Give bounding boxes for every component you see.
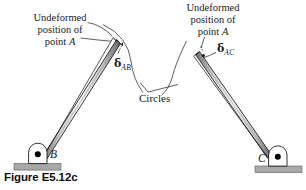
pin-c [275,154,281,160]
left-label-point-a: A [69,36,75,47]
label-delta-ac: δAC [217,42,234,58]
label-point-c: C [258,152,266,165]
label-undeformed-position-right: Undeformed position of point A [167,2,259,37]
label-undeformed-position-left: Undeformed position of point A [14,12,106,47]
label-delta-ab: δAB [114,57,131,73]
leader-circles [140,83,178,93]
right-label-line1: Undeformed [167,2,259,14]
ground-slab-c [255,166,302,173]
pin-b [35,151,41,157]
figure-container: Undeformed position of point A Undeforme… [0,0,306,190]
right-label-point-word: point [198,26,222,37]
right-label-line3: point A [167,26,259,38]
label-point-b: B [50,148,57,161]
right-label-point-a: A [222,26,228,37]
label-circles: Circles [139,92,170,104]
left-label-line3: point A [14,36,106,48]
arc-circle-right [162,41,187,96]
bar-ab-rod [42,40,120,160]
right-label-line2: position of [167,14,259,26]
ground-slab-b [14,164,61,171]
left-label-point-word: point [45,36,69,47]
bar-ac-rod [196,51,272,158]
delta-ab-subscript: AB [121,63,131,72]
delta-ac-subscript: AC [224,48,234,57]
leader-right-label [201,37,205,48]
leader-delta-ac [204,53,216,58]
left-label-line1: Undeformed [14,12,106,24]
left-label-line2: position of [14,24,106,36]
figure-caption: Figure E5.12c [4,171,77,183]
